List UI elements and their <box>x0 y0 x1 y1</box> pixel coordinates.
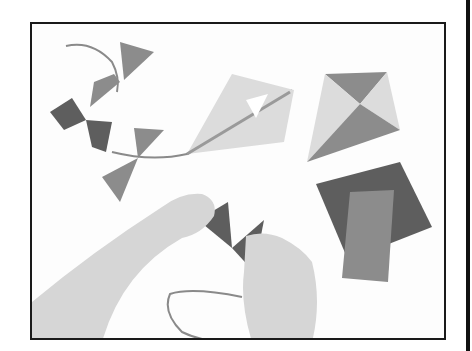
right-hand <box>243 233 317 340</box>
fabric-squares <box>316 162 432 282</box>
string-loop <box>168 291 242 340</box>
kite-with-spar <box>187 74 294 154</box>
tail-bow-2 <box>50 98 112 152</box>
right-edge-line <box>466 0 470 351</box>
cross-kite <box>307 72 400 162</box>
photo-frame <box>30 22 446 340</box>
kite-craft-illustration <box>32 24 446 340</box>
tail-bow-3 <box>102 128 164 202</box>
left-hand <box>32 194 215 340</box>
